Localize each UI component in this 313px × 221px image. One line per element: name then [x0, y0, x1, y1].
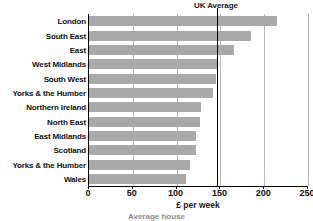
y-axis-category-label: Yorks & the Humber — [0, 161, 86, 170]
x-axis-tick-label: 0 — [85, 188, 90, 198]
bar-row — [89, 59, 308, 69]
bar-row — [89, 174, 308, 184]
bar — [89, 45, 234, 55]
y-axis-category-label: West Midlands — [0, 60, 86, 69]
bar — [89, 31, 251, 41]
gridline — [308, 14, 309, 186]
y-axis-category-label: South East — [0, 32, 86, 41]
bar — [89, 174, 186, 184]
y-axis-category-label: Scotland — [0, 146, 86, 155]
x-axis-tick-mark — [176, 186, 177, 189]
bar-row — [89, 102, 308, 112]
x-axis-tick-mark — [219, 186, 220, 189]
y-axis-category-label: Wales — [0, 175, 86, 184]
bar-row — [89, 88, 308, 98]
x-axis-tick-mark — [307, 186, 308, 189]
figure-caption: Average house — [0, 212, 313, 221]
x-axis-tick-label: 250 — [299, 188, 313, 198]
y-axis-category-label: South West — [0, 75, 86, 84]
x-axis-title: £ per week — [88, 200, 308, 210]
x-axis-tick-mark — [263, 186, 264, 189]
y-axis-category-labels: LondonSouth EastEastWest MidlandsSouth W… — [0, 14, 86, 186]
uk-average-line — [217, 8, 218, 186]
bar-row — [89, 45, 308, 55]
bar — [89, 74, 216, 84]
bar-row — [89, 16, 308, 26]
bar — [89, 59, 218, 69]
y-axis-category-label: Yorks & the Humber — [0, 89, 86, 98]
y-axis-category-label: East — [0, 46, 86, 55]
bar-chart: UK Average LondonSouth EastEastWest Midl… — [0, 0, 313, 221]
bar — [89, 131, 196, 141]
x-axis-tick-label: 100 — [168, 188, 183, 198]
x-axis-line — [88, 186, 308, 187]
plot-area — [88, 14, 308, 186]
bar-row — [89, 31, 308, 41]
y-axis-category-label: Northern Ireland — [0, 103, 86, 112]
y-axis-category-label: East Midlands — [0, 132, 86, 141]
x-axis-tick-labels: 050100150200250 — [0, 188, 313, 200]
bar-row — [89, 74, 308, 84]
bar-row — [89, 117, 308, 127]
y-axis-category-label: North East — [0, 118, 86, 127]
x-axis-tick-label: 200 — [256, 188, 271, 198]
bar — [89, 117, 200, 127]
x-axis-tick-label: 50 — [127, 188, 137, 198]
bar — [89, 160, 190, 170]
bar — [89, 16, 277, 26]
y-axis-category-label: London — [0, 17, 86, 26]
uk-average-label-text: UK Average — [194, 1, 238, 10]
x-axis-tick-label: 150 — [212, 188, 227, 198]
x-axis-tick-mark — [132, 186, 133, 189]
bar — [89, 102, 201, 112]
bar — [89, 145, 196, 155]
bar-row — [89, 131, 308, 141]
bar — [89, 88, 213, 98]
bar-row — [89, 145, 308, 155]
bar-row — [89, 160, 308, 170]
x-axis-tick-mark — [88, 186, 89, 189]
